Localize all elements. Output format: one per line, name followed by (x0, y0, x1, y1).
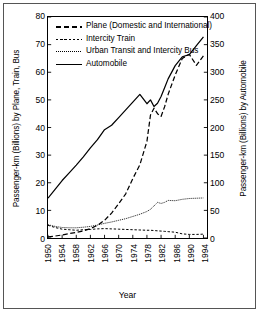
y-axis-right: 050100150200250300350400 (210, 16, 236, 239)
x-tick-label: 1990 (186, 244, 196, 263)
legend-item: Automobile (56, 59, 206, 72)
legend-dotted-key (56, 51, 82, 52)
legend-label: Urban Transit and Intercity Bus (86, 46, 198, 55)
legend-short-dash-key (56, 39, 82, 40)
y-tick-label-right: 300 (210, 67, 236, 77)
legend-label: Intercity Train (86, 34, 135, 43)
x-axis-title: Year (47, 290, 208, 300)
x-tick-label: 1974 (129, 244, 139, 263)
x-tick-label: 1978 (143, 244, 153, 263)
y-axis-right-title: Passenger-km (Billions) by Automobile (239, 17, 248, 241)
y-tick-label-right: 100 (210, 178, 236, 188)
figure-container: 01020304050607080 Passenger-km (Billions… (3, 3, 256, 309)
series-line-2 (48, 198, 203, 228)
legend-long-dash-key (56, 26, 82, 28)
x-tick-label: 1958 (71, 244, 81, 263)
y-axis-right-title-wrap: Passenger-km (Billions) by Automobile (235, 16, 251, 239)
x-axis: 1950195419581962196619701974197819821986… (47, 240, 208, 286)
chart-legend: Plane (Domestic and International)Interc… (56, 21, 206, 71)
x-tick-label: 1966 (100, 244, 110, 263)
legend-solid-key (56, 64, 82, 66)
y-tick-label-right: 200 (210, 123, 236, 133)
x-tick-label: 1962 (86, 244, 96, 263)
x-tick-label: 1950 (43, 244, 53, 263)
legend-item: Plane (Domestic and International) (56, 21, 206, 34)
series-line-0 (48, 54, 203, 237)
x-tick-label: 1994 (200, 244, 210, 263)
y-tick-label-right: 50 (210, 206, 236, 216)
legend-label: Plane (Domestic and International) (86, 21, 212, 30)
legend-item: Urban Transit and Intercity Bus (56, 46, 206, 59)
x-tick-label: 1986 (172, 244, 182, 263)
y-axis-left-title: Passenger-km (Billions) by Plane, Train,… (12, 9, 21, 249)
x-tick-label: 1970 (114, 244, 124, 263)
legend-item: Intercity Train (56, 34, 206, 47)
y-tick-label-right: 150 (210, 150, 236, 160)
legend-label: Automobile (86, 59, 127, 68)
y-tick-label-right: 400 (210, 11, 236, 21)
y-tick-label-right: 0 (210, 234, 236, 244)
x-tick-label: 1954 (57, 244, 67, 263)
y-tick-label-right: 250 (210, 95, 236, 105)
x-tick-label: 1982 (157, 244, 167, 263)
y-tick-label-right: 350 (210, 39, 236, 49)
y-axis-left-title-wrap: Passenger-km (Billions) by Plane, Train,… (8, 16, 24, 239)
